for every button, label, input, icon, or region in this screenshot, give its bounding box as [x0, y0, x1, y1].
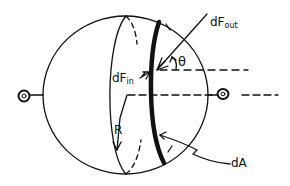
left-eyelet-ring: [19, 91, 30, 102]
label-dF-out: dFout: [210, 16, 238, 30]
label-dF-out-main: dF: [210, 15, 225, 29]
area-element-band: [151, 22, 164, 163]
dA-leader-line: [160, 135, 230, 164]
label-dF-out-sub: out: [225, 21, 238, 30]
left-eyelet-hole: [22, 94, 26, 98]
label-theta: θ: [178, 55, 186, 68]
great-circle-back-arc-lower: [126, 140, 141, 174]
great-circle-front-arc: [110, 16, 126, 174]
label-dF-in-sub: in: [127, 77, 134, 86]
great-circle-back-arc: [126, 16, 137, 44]
right-eyelet-hole: [221, 92, 225, 96]
label-R: R: [114, 124, 122, 136]
band-tick-bottom: [168, 146, 172, 152]
force-in-arrowhead: [140, 72, 150, 79]
label-dF-in-main: dF: [112, 71, 127, 85]
right-eyelet-ring: [218, 89, 229, 99]
label-dA: dA: [231, 157, 247, 169]
label-dF-in: dFin: [112, 72, 134, 86]
